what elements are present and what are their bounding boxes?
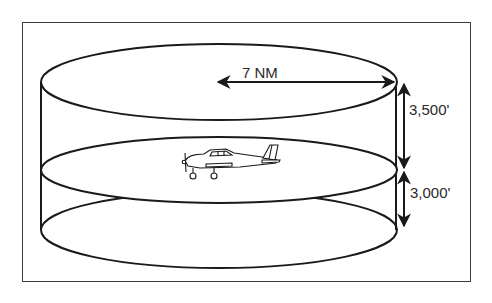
lower-height-label: 3,000' bbox=[410, 184, 450, 201]
upper-height-label: 3,500' bbox=[409, 101, 449, 118]
airspace-cylinder-diagram bbox=[0, 0, 492, 303]
middle-ellipse bbox=[41, 137, 397, 203]
radius-label: 7 NM bbox=[242, 64, 278, 81]
